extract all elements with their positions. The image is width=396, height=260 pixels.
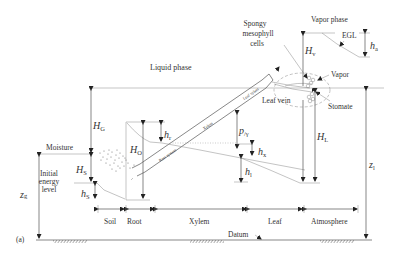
zg-symbol: zg	[19, 189, 28, 200]
spongy-label-2: mesophyll	[242, 29, 273, 38]
datum-ground	[36, 240, 372, 243]
ground-hatch-left	[53, 240, 87, 243]
root-tip	[131, 178, 133, 180]
initial-energy-label-3: level	[42, 185, 57, 194]
segment-scale	[98, 205, 358, 213]
xylem-tube-label: Xylem	[202, 120, 215, 131]
hydraulic-grade-line	[162, 143, 305, 170]
egl-label: EGL	[342, 31, 357, 40]
leaf-vein	[272, 82, 312, 92]
HL-symbol: HL	[316, 131, 328, 143]
xylem-tube: Root system Xylem Leaf xylem	[131, 67, 279, 180]
vapor-phase-label: Vapor phase	[311, 15, 349, 24]
HS-symbol: HS	[75, 164, 87, 176]
hr-symbol: hr	[164, 129, 172, 141]
segment-root: Root	[127, 217, 143, 226]
hx-symbol: hx	[258, 146, 267, 158]
vapor-pointer	[318, 75, 329, 80]
datum-pointer	[255, 235, 261, 239]
HG-symbol: HG	[92, 120, 105, 132]
hl-symbol: hl	[245, 166, 252, 178]
spongy-label-1: Spongy	[244, 19, 267, 28]
spongy-pointer	[284, 45, 307, 78]
HO-symbol: HO	[129, 144, 142, 156]
leaf-grade-line	[241, 158, 320, 183]
zl-symbol: zl	[368, 159, 375, 171]
datum-label: Datum	[228, 230, 249, 239]
ha-symbol: ha	[370, 40, 378, 52]
soil-energy-drop	[97, 183, 125, 199]
egl-pointer	[340, 41, 344, 46]
Hv-symbol: Hv	[304, 45, 316, 57]
leaf-vein-label: Leaf vein	[262, 96, 291, 105]
moisture-label: Moisture	[46, 143, 74, 152]
ground-hatch-mid	[190, 240, 224, 243]
stomate-icon	[312, 88, 315, 92]
xylem-flow-arrow	[276, 67, 279, 71]
stomate-label: Stomate	[328, 102, 353, 111]
spongy-label-3: cells	[250, 39, 264, 48]
hS-symbol: hS	[81, 188, 90, 200]
vapor-label: Vapor	[331, 70, 349, 79]
soil-plant-atmosphere-diagram: (a) Datum zg Liquid phase HG Moisture HS…	[0, 0, 396, 260]
segment-xylem: Xylem	[189, 217, 210, 226]
panel-label: (a)	[16, 235, 25, 244]
liquid-phase-label: Liquid phase	[150, 63, 192, 72]
segment-soil: Soil	[104, 217, 116, 226]
segment-leaf: Leaf	[268, 217, 282, 226]
segment-atmosphere: Atmosphere	[311, 217, 348, 226]
pgamma-symbol: p/γ	[238, 125, 249, 137]
root-energy-curve	[127, 123, 162, 143]
ground-hatch-right	[320, 240, 354, 243]
